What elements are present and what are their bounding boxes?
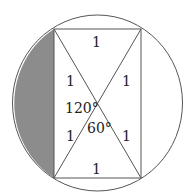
label-top-side: 1	[92, 34, 101, 50]
label-lower-right: 1	[122, 128, 131, 144]
label-angle-120: 120°	[65, 100, 99, 116]
label-bottom-side: 1	[92, 161, 101, 177]
label-angle-60: 60°	[87, 120, 112, 136]
label-lower-left: 1	[66, 128, 75, 144]
inscribed-rectangle-diagram: 1 1 1 120° 60° 1 1 1	[0, 0, 192, 194]
shaded-segment	[14, 29, 54, 178]
label-upper-right: 1	[122, 73, 131, 89]
label-upper-left: 1	[66, 73, 75, 89]
